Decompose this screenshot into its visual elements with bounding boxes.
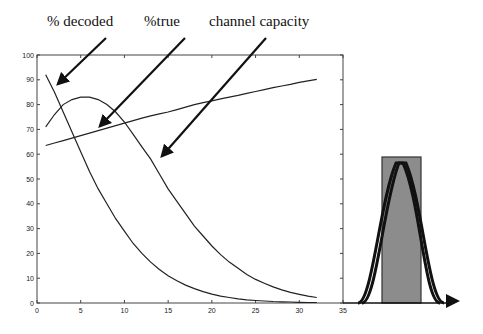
y-tick-label: 100 [22, 52, 34, 59]
y-tick-label: 0 [30, 300, 34, 307]
arrow-true-icon [100, 38, 185, 126]
y-tick-label: 20 [26, 250, 34, 257]
arrow-decoded-icon [58, 38, 106, 84]
x-tick-label: 10 [121, 307, 129, 314]
label-capacity: channel capacity [209, 13, 310, 29]
y-tick-label: 90 [26, 76, 34, 83]
x-tick-label: 0 [35, 307, 39, 314]
chart-canvas: % decoded %true channel capacity 0102030… [0, 0, 483, 334]
x-tick-label: 30 [295, 307, 303, 314]
y-tick-label: 30 [26, 225, 34, 232]
plot-frame [37, 55, 343, 303]
x-tick-label: 15 [164, 307, 172, 314]
y-tick-label: 60 [26, 151, 34, 158]
arrow-capacity-icon [162, 38, 266, 156]
inset-rectangle [382, 157, 421, 303]
y-tick-label: 50 [26, 176, 34, 183]
baseline-arrowhead-icon [446, 294, 460, 308]
curve-true [46, 97, 317, 297]
y-tick-label: 10 [26, 275, 34, 282]
curves [46, 75, 317, 303]
inset-diagram [343, 157, 460, 308]
x-tick-label: 25 [252, 307, 260, 314]
x-tick-label: 35 [339, 307, 347, 314]
y-tick-label: 40 [26, 200, 34, 207]
y-tick-label: 80 [26, 101, 34, 108]
x-axis: 05101520253035 [35, 55, 347, 314]
label-true: %true [144, 13, 180, 29]
x-tick-label: 20 [208, 307, 216, 314]
y-tick-label: 70 [26, 126, 34, 133]
y-axis: 0102030405060708090100 [22, 52, 343, 307]
label-decoded: % decoded [47, 13, 114, 29]
x-tick-label: 5 [79, 307, 83, 314]
